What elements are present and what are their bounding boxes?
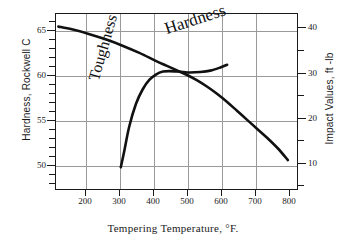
chart-container: 65 60 55 50 40 30 20 10 200 300 400 500 … (0, 0, 346, 250)
data-curves (0, 0, 346, 250)
axis-title-right: Impact Values, ft -lb (324, 19, 335, 179)
series-line-toughness (121, 65, 227, 168)
axis-title-left: Hardness, Rockwell C (21, 10, 32, 170)
axis-title-bottom: Tempering Temperature, °F. (0, 222, 346, 234)
